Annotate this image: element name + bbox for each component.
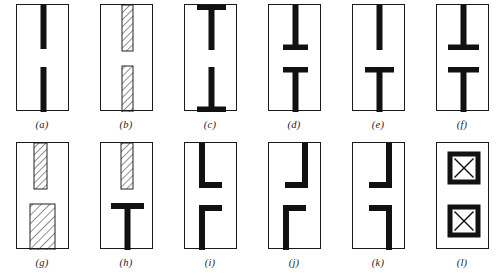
- panel-frame-wrap-d: [252, 4, 336, 115]
- panel-h: [100, 142, 153, 249]
- panel-cell-k: (k): [336, 142, 420, 277]
- panel-frame-wrap-b: [84, 4, 168, 115]
- panel-caption-a: (a): [36, 120, 49, 131]
- panel-cell-e: (e): [336, 4, 420, 138]
- panel-cell-h: (h): [84, 142, 168, 277]
- panel-frame-wrap-g: [0, 142, 84, 253]
- crossed-box-bottom: [450, 207, 478, 235]
- panel-h-drawing: [101, 143, 154, 250]
- panel-c-drawing: [185, 5, 238, 112]
- crossed-box-top: [450, 154, 478, 182]
- panel-a-drawing: [17, 5, 70, 112]
- panel-cell-l: (l): [420, 142, 504, 277]
- panel-d-drawing: [269, 5, 322, 112]
- panel-row-bottom: (g) (h): [0, 142, 504, 277]
- panel-j: [268, 142, 321, 249]
- panel-b-drawing: [101, 5, 154, 112]
- panel-cell-j: (j): [252, 142, 336, 277]
- panel-cell-d: (d): [252, 4, 336, 138]
- panel-frame-wrap-k: [336, 142, 420, 253]
- panel-l-drawing: [437, 143, 490, 250]
- panel-row-top: (a) (b): [0, 4, 504, 138]
- panel-b: [100, 4, 153, 111]
- panel-i-drawing: [185, 143, 238, 250]
- figure-panel-grid: (a) (b): [0, 0, 504, 277]
- panel-frame-wrap-c: [168, 4, 252, 115]
- panel-g-drawing: [17, 143, 70, 250]
- panel-caption-b: (b): [120, 120, 133, 131]
- panel-frame-wrap-e: [336, 4, 420, 115]
- panel-caption-e: (e): [372, 120, 384, 131]
- panel-caption-i: (i): [205, 258, 216, 269]
- panel-c: [184, 4, 237, 111]
- panel-k: [352, 142, 405, 249]
- panel-cell-f: (f): [420, 4, 504, 138]
- panel-e-drawing: [353, 5, 406, 112]
- panel-frame-wrap-h: [84, 142, 168, 253]
- panel-e: [352, 4, 405, 111]
- panel-frame-wrap-i: [168, 142, 252, 253]
- panel-l: [436, 142, 489, 249]
- panel-f-drawing: [437, 5, 490, 112]
- panel-caption-g: (g): [36, 258, 49, 269]
- panel-cell-c: (c): [168, 4, 252, 138]
- panel-cell-i: (i): [168, 142, 252, 277]
- panel-frame-wrap-j: [252, 142, 336, 253]
- panel-f: [436, 4, 489, 111]
- panel-frame-wrap-a: [0, 4, 84, 115]
- panel-i: [184, 142, 237, 249]
- panel-caption-c: (c): [204, 120, 216, 131]
- panel-j-drawing: [269, 143, 322, 250]
- panel-caption-k: (k): [372, 258, 384, 269]
- panel-cell-b: (b): [84, 4, 168, 138]
- panel-d: [268, 4, 321, 111]
- panel-caption-l: (l): [457, 258, 468, 269]
- panel-a: [16, 4, 69, 111]
- panel-cell-a: (a): [0, 4, 84, 138]
- panel-k-drawing: [353, 143, 406, 250]
- panel-caption-f: (f): [457, 120, 468, 131]
- panel-g: [16, 142, 69, 249]
- panel-caption-d: (d): [288, 120, 301, 131]
- panel-cell-g: (g): [0, 142, 84, 277]
- panel-frame-wrap-f: [420, 4, 504, 115]
- panel-caption-j: (j): [289, 258, 300, 269]
- panel-frame-wrap-l: [420, 142, 504, 253]
- panel-caption-h: (h): [120, 258, 133, 269]
